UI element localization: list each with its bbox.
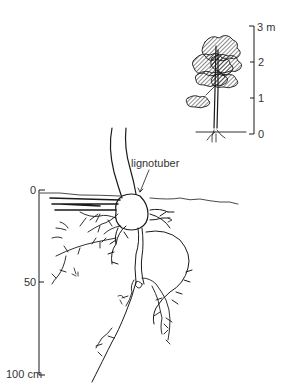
- tree-illustration: [186, 35, 246, 142]
- height-tick-3m: 3 m: [257, 22, 275, 33]
- height-tick-2: 2: [258, 57, 264, 68]
- tree-crown: [186, 35, 241, 107]
- height-scale: [249, 26, 254, 134]
- depth-tick-100cm: 100 cm: [6, 369, 42, 380]
- taproot: [92, 228, 144, 382]
- depth-tick-50: 50: [24, 277, 36, 288]
- height-tick-1: 1: [258, 93, 264, 104]
- depth-tick-0: 0: [30, 185, 36, 196]
- lignotuber-label: lignotuber: [131, 158, 179, 169]
- height-tick-0: 0: [258, 129, 264, 140]
- annotation-arrow: [140, 170, 149, 192]
- depth-scale: [39, 190, 45, 375]
- diagram-canvas: [0, 0, 285, 391]
